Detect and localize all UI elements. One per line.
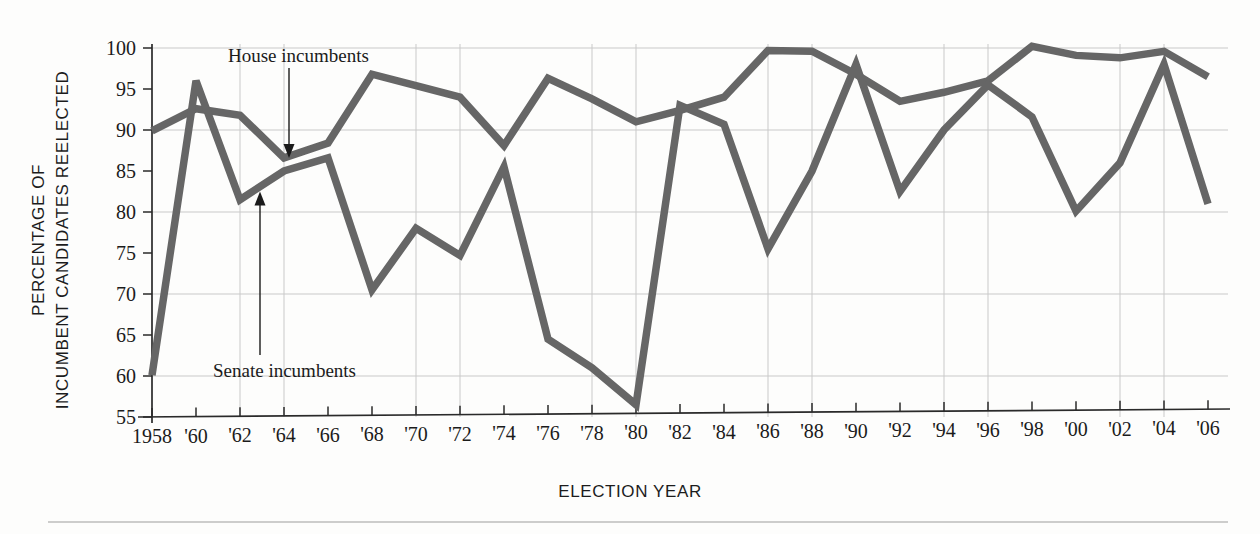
y-axis-title-line1: PERCENTAGE OF xyxy=(29,164,48,316)
x-tick-label: '02 xyxy=(1108,418,1132,440)
x-tick-label: '96 xyxy=(976,419,1000,441)
x-tick-label: '76 xyxy=(536,422,560,444)
incumbent-reelection-line-chart: 556065707580859095100 1958'60'62'64'66'6… xyxy=(0,0,1260,534)
x-axis-line xyxy=(138,409,1230,417)
series-line-senate-incumbents xyxy=(152,64,1208,404)
x-tick-label: '80 xyxy=(624,421,648,443)
y-tick-label: 100 xyxy=(106,37,136,59)
x-tick-label: '00 xyxy=(1064,418,1088,440)
x-tick-label: '66 xyxy=(316,424,340,446)
y-tick-label: 75 xyxy=(116,242,136,264)
x-tick-label: '06 xyxy=(1196,417,1220,439)
x-axis-title: ELECTION YEAR xyxy=(558,482,702,501)
x-tick-label: '60 xyxy=(184,425,208,447)
x-tick-label: '62 xyxy=(228,424,252,446)
x-tick-label: '90 xyxy=(844,420,868,442)
y-tick-label: 80 xyxy=(116,201,136,223)
x-tick-label: '68 xyxy=(360,423,384,445)
chart-figure: 556065707580859095100 1958'60'62'64'66'6… xyxy=(0,0,1260,534)
x-tick-label: '84 xyxy=(712,421,736,443)
x-tick-label: '98 xyxy=(1020,418,1044,440)
x-tick-label: '70 xyxy=(404,423,428,445)
x-tick-label: '94 xyxy=(932,419,956,441)
y-tick-label: 70 xyxy=(116,283,136,305)
y-tick-label: 60 xyxy=(116,365,136,387)
x-tick-label: '82 xyxy=(668,421,692,443)
y-tick-label: 65 xyxy=(116,324,136,346)
annotation-label-house-incumbents: House incumbents xyxy=(228,45,369,66)
x-tick-label: '92 xyxy=(888,419,912,441)
y-tick-label: 95 xyxy=(116,78,136,100)
x-tick-label: '74 xyxy=(492,422,516,444)
annotation-label-senate-incumbents: Senate incumbents xyxy=(213,360,356,381)
y-tick-label: 90 xyxy=(116,119,136,141)
y-axis-title-line2: INCUMBENT CANDIDATES REELECTED xyxy=(53,71,72,410)
x-tick-label: '78 xyxy=(580,422,604,444)
x-tick-label: '72 xyxy=(448,423,472,445)
y-axis-tick-labels: 556065707580859095100 xyxy=(106,37,136,428)
x-tick-label: '04 xyxy=(1152,417,1176,439)
x-tick-label: '88 xyxy=(800,420,824,442)
x-tick-label: '64 xyxy=(272,424,296,446)
x-axis-tick-labels: 1958'60'62'64'66'68'70'72'74'76'78'80'82… xyxy=(132,417,1220,447)
y-tick-label: 85 xyxy=(116,160,136,182)
data-series xyxy=(152,46,1208,404)
x-tick-label: '86 xyxy=(756,420,780,442)
x-tick-label: 1958 xyxy=(132,425,172,447)
